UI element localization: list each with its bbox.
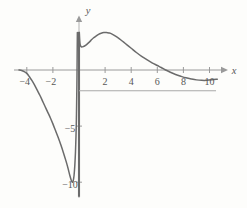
plot-canvas [0, 0, 247, 208]
curve-group [19, 32, 217, 182]
x-tick-label-2: 2 [103, 77, 108, 87]
x-tick-label-3: 4 [129, 77, 134, 87]
x-axis-arrow-icon [221, 67, 228, 73]
y-tick-label-0: −5 [65, 124, 76, 134]
y-axis-arrow-icon [76, 16, 82, 23]
curve-branch-left [19, 32, 77, 182]
x-axis [14, 67, 228, 73]
x-tick-label-6: 10 [205, 77, 215, 87]
graph-figure: −4−2246810−5−10xy [0, 0, 247, 208]
curve-branch-right [79, 32, 217, 80]
x-tick-label-0: −4 [19, 77, 30, 87]
x-tick-label-4: 6 [155, 77, 160, 87]
x-axis-label: x [232, 66, 237, 76]
y-tick-label-1: −10 [62, 180, 78, 190]
y-axis-label: y [86, 6, 91, 16]
auxiliary-lines [79, 32, 216, 197]
x-tick-label-1: −2 [46, 77, 57, 87]
x-tick-label-5: 8 [181, 77, 186, 87]
